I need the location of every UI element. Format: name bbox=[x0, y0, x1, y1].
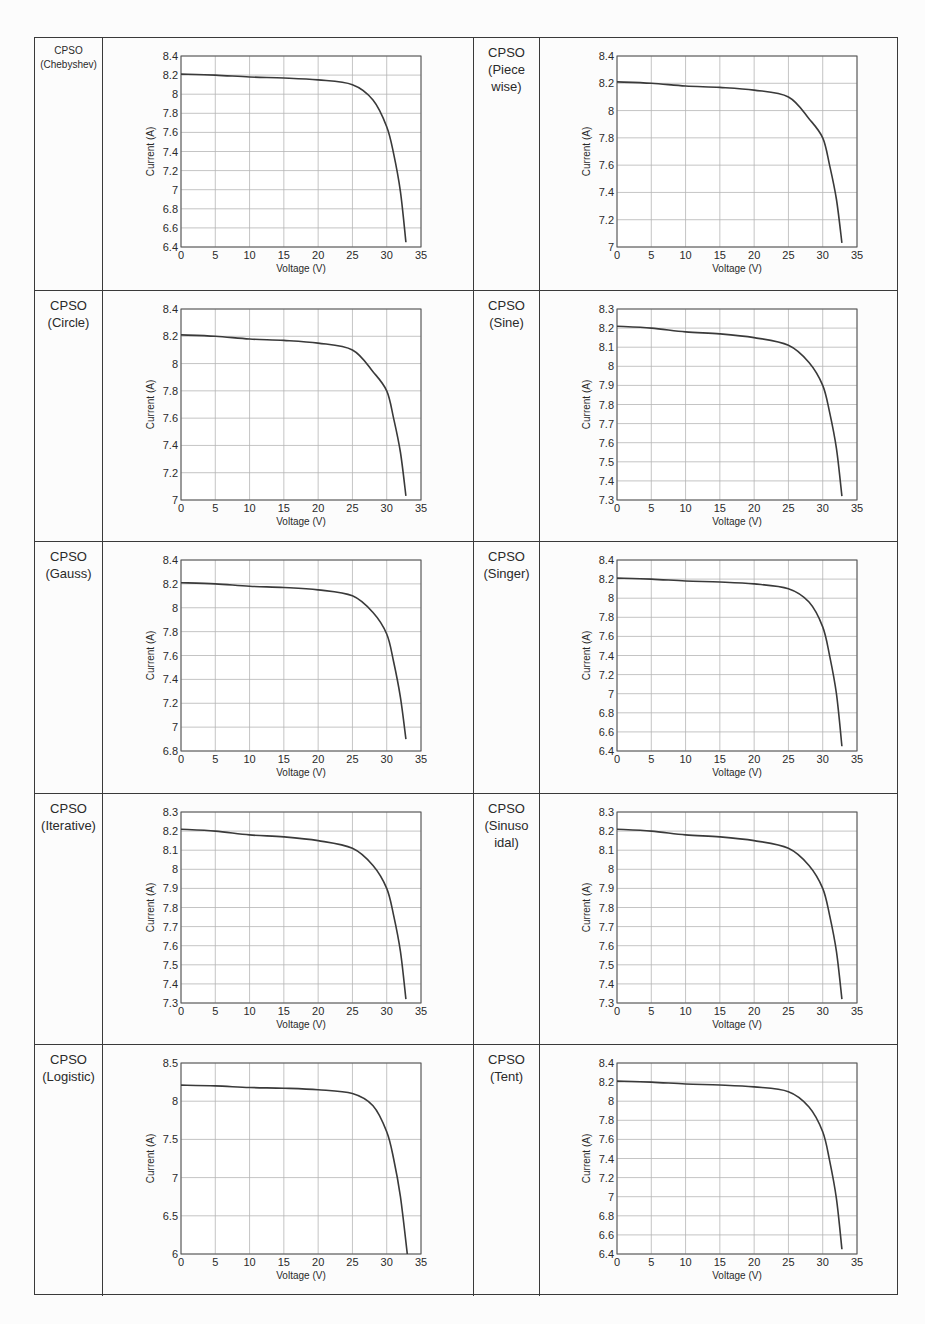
y-tick-label: 7.8 bbox=[599, 132, 614, 144]
method-label-line: (Chebyshev) bbox=[35, 58, 102, 72]
y-tick-label: 8 bbox=[608, 1096, 614, 1108]
y-tick-label: 8.3 bbox=[163, 806, 178, 818]
x-tick-label: 30 bbox=[381, 1256, 393, 1268]
y-tick-label: 7.2 bbox=[163, 697, 178, 709]
x-axis-label: Voltage (V) bbox=[276, 263, 325, 274]
x-tick-label: 0 bbox=[178, 249, 184, 261]
method-label-line: (Logistic) bbox=[35, 1068, 102, 1085]
x-tick-label: 5 bbox=[648, 1005, 654, 1017]
x-tick-label: 25 bbox=[346, 753, 358, 765]
table-row: CPSO(Chebyshev)6.46.66.877.27.47.67.888.… bbox=[35, 38, 897, 290]
x-tick-label: 20 bbox=[312, 1005, 324, 1017]
iv-curve-chart: 6.46.66.877.27.47.67.888.28.405101520253… bbox=[103, 38, 473, 290]
method-label-cell: CPSO(Iterative) bbox=[35, 794, 103, 1045]
x-tick-label: 10 bbox=[679, 753, 691, 765]
y-tick-label: 7.4 bbox=[163, 146, 178, 158]
x-tick-label: 20 bbox=[312, 753, 324, 765]
y-tick-label: 8.2 bbox=[163, 578, 178, 590]
iv-curve-chart: 6.46.66.877.27.47.67.888.28.405101520253… bbox=[540, 1045, 899, 1297]
y-tick-label: 7 bbox=[608, 1191, 614, 1203]
y-tick-label: 7.4 bbox=[599, 474, 614, 486]
y-tick-label: 6.8 bbox=[163, 745, 178, 757]
x-tick-label: 35 bbox=[415, 753, 427, 765]
y-tick-label: 7.6 bbox=[163, 412, 178, 424]
x-axis-label: Voltage (V) bbox=[712, 516, 761, 527]
y-tick-label: 7.2 bbox=[599, 214, 614, 226]
chart-cell: 77.27.47.67.888.28.405101520253035Voltag… bbox=[540, 38, 899, 290]
x-tick-label: 5 bbox=[648, 249, 654, 261]
y-tick-label: 8 bbox=[608, 592, 614, 604]
y-tick-label: 7.7 bbox=[599, 920, 614, 932]
x-axis-label: Voltage (V) bbox=[712, 1019, 761, 1030]
x-tick-label: 15 bbox=[278, 1005, 290, 1017]
x-tick-label: 15 bbox=[278, 502, 290, 514]
x-tick-label: 35 bbox=[415, 1005, 427, 1017]
chart-cell: 7.37.47.57.67.77.87.988.18.28.3051015202… bbox=[540, 794, 899, 1045]
chart-cell: 6.46.66.877.27.47.67.888.28.405101520253… bbox=[103, 38, 473, 290]
x-tick-label: 20 bbox=[312, 249, 324, 261]
x-tick-label: 10 bbox=[243, 249, 255, 261]
y-tick-label: 8 bbox=[172, 1096, 178, 1108]
y-tick-label: 6.4 bbox=[599, 1248, 614, 1260]
x-tick-label: 0 bbox=[614, 1005, 620, 1017]
y-tick-label: 8 bbox=[172, 602, 178, 614]
x-tick-label: 20 bbox=[748, 502, 760, 514]
y-tick-label: 7.3 bbox=[599, 494, 614, 506]
y-tick-label: 7.8 bbox=[163, 384, 178, 396]
x-tick-label: 20 bbox=[312, 1256, 324, 1268]
y-tick-label: 7.7 bbox=[163, 920, 178, 932]
y-tick-label: 8.1 bbox=[163, 844, 178, 856]
y-tick-label: 7.5 bbox=[599, 455, 614, 467]
y-tick-label: 7.6 bbox=[599, 1134, 614, 1146]
x-tick-label: 15 bbox=[278, 753, 290, 765]
method-label-cell: CPSO(Logistic) bbox=[35, 1045, 103, 1296]
y-tick-label: 7 bbox=[172, 184, 178, 196]
x-tick-label: 30 bbox=[381, 249, 393, 261]
x-tick-label: 20 bbox=[748, 249, 760, 261]
x-axis-label: Voltage (V) bbox=[276, 1019, 325, 1030]
x-tick-label: 35 bbox=[851, 1005, 863, 1017]
y-tick-label: 8.1 bbox=[599, 341, 614, 353]
chart-cell: 7.37.47.57.67.77.87.988.18.28.3051015202… bbox=[103, 794, 473, 1045]
y-axis-label: Current (A) bbox=[145, 1134, 156, 1183]
method-label-cell: CPSO(Tent) bbox=[473, 1045, 540, 1296]
x-tick-label: 0 bbox=[178, 753, 184, 765]
iv-curve-chart: 6.46.66.877.27.47.67.888.28.405101520253… bbox=[540, 542, 899, 794]
y-tick-label: 6.8 bbox=[599, 707, 614, 719]
y-axis-label: Current (A) bbox=[581, 883, 592, 932]
y-tick-label: 8.2 bbox=[599, 77, 614, 89]
x-tick-label: 35 bbox=[851, 1256, 863, 1268]
plot-area bbox=[181, 309, 421, 500]
x-tick-label: 30 bbox=[381, 753, 393, 765]
x-tick-label: 15 bbox=[278, 249, 290, 261]
x-tick-label: 10 bbox=[243, 1256, 255, 1268]
x-tick-label: 5 bbox=[648, 753, 654, 765]
y-tick-label: 6.5 bbox=[163, 1210, 178, 1222]
x-tick-label: 5 bbox=[212, 1005, 218, 1017]
y-tick-label: 7.4 bbox=[163, 674, 178, 686]
y-tick-label: 8 bbox=[172, 357, 178, 369]
y-tick-label: 8.3 bbox=[599, 303, 614, 315]
x-tick-label: 25 bbox=[782, 502, 794, 514]
chart-cell: 66.577.588.505101520253035Voltage (V)Cur… bbox=[103, 1045, 473, 1296]
method-label-line: CPSO bbox=[35, 548, 102, 565]
x-tick-label: 5 bbox=[212, 1256, 218, 1268]
x-tick-label: 0 bbox=[178, 1005, 184, 1017]
y-tick-label: 8 bbox=[608, 360, 614, 372]
x-tick-label: 35 bbox=[415, 1256, 427, 1268]
x-tick-label: 35 bbox=[415, 249, 427, 261]
method-label-line: CPSO bbox=[474, 44, 539, 61]
y-tick-label: 8.2 bbox=[163, 69, 178, 81]
x-tick-label: 30 bbox=[817, 753, 829, 765]
y-tick-label: 7 bbox=[172, 1172, 178, 1184]
y-tick-label: 8.5 bbox=[163, 1057, 178, 1069]
y-tick-label: 7.6 bbox=[599, 436, 614, 448]
x-axis-label: Voltage (V) bbox=[276, 516, 325, 527]
x-tick-label: 10 bbox=[679, 1005, 691, 1017]
x-tick-label: 10 bbox=[243, 1005, 255, 1017]
y-tick-label: 7.4 bbox=[163, 439, 178, 451]
y-tick-label: 7.3 bbox=[599, 997, 614, 1009]
y-tick-label: 7.4 bbox=[599, 650, 614, 662]
x-tick-label: 5 bbox=[212, 249, 218, 261]
x-tick-label: 15 bbox=[714, 753, 726, 765]
